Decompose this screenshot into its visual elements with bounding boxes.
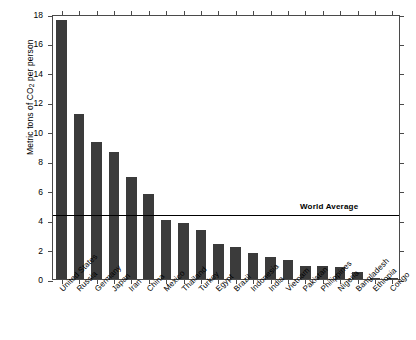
y-axis-tick-label: 0 [15,276,43,285]
bar [161,220,172,279]
bar [143,194,154,279]
x-axis-tick-top [79,11,80,16]
y-axis-tick-label: 14 [15,70,43,79]
x-axis-tick-top [323,11,324,16]
y-axis-tick [48,163,53,164]
plot-area: 024681012141618World Average [52,15,400,280]
x-axis-tick-top [375,11,376,16]
bar [283,260,294,279]
co2-per-person-bar-chart: Metric tons of CO2 per person 0246810121… [0,0,416,340]
y-axis-tick-label: 6 [15,188,43,197]
bar [74,114,85,279]
y-axis-tick [48,133,53,134]
y-axis-tick [48,222,53,223]
x-axis-tick-top [340,11,341,16]
x-axis-tick-top [131,11,132,16]
y-axis-tick-label: 4 [15,217,43,226]
x-axis-tick-top [166,11,167,16]
y-axis-tick-label: 16 [15,40,43,49]
y-axis-tick [48,16,53,17]
bar [126,177,137,279]
x-axis-tick-top [288,11,289,16]
x-axis-tick-top [392,11,393,16]
y-axis-tick-right [399,74,404,75]
x-axis-tick-top [358,11,359,16]
y-axis-tick [48,251,53,252]
x-axis-tick-top [62,11,63,16]
y-axis-tick [48,45,53,46]
y-axis-tick-label: 10 [15,129,43,138]
y-axis-tick-right [399,251,404,252]
y-axis-tick [48,281,53,282]
world-average-label: World Average [300,202,358,211]
bar [230,247,241,279]
y-axis-tick-right [399,104,404,105]
x-axis-tick-top [305,11,306,16]
y-axis-tick-label: 18 [15,11,43,20]
y-axis-tick-right [399,192,404,193]
y-axis-tick [48,104,53,105]
world-average-line [53,215,399,217]
x-axis-tick-top [97,11,98,16]
x-axis-tick-top [184,11,185,16]
x-axis-tick-top [218,11,219,16]
y-axis-tick [48,192,53,193]
y-axis-tick-right [399,163,404,164]
y-axis-tick [48,74,53,75]
y-axis-tick-label: 8 [15,158,43,167]
x-axis-tick-top [149,11,150,16]
y-axis-title-subscript: 2 [28,83,35,87]
x-axis-tick-top [253,11,254,16]
bar [56,20,67,279]
y-axis-tick-label: 2 [15,247,43,256]
y-axis-tick-right [399,133,404,134]
y-axis-tick-label: 12 [15,99,43,108]
y-axis-tick-right [399,16,404,17]
y-axis-tick-right [399,222,404,223]
y-axis-tick-right [399,45,404,46]
x-axis-tick-top [271,11,272,16]
x-axis-tick-top [201,11,202,16]
x-axis-tick-top [236,11,237,16]
x-axis-tick-top [114,11,115,16]
